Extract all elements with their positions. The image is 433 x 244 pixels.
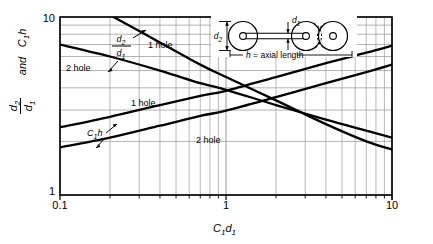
label-one-hole-middle: 1 hole [131,98,156,108]
y-tick-0: 1 [49,185,55,197]
y-tick-1: 10 [43,12,55,24]
x-axis-title-c: C [213,222,221,234]
x-axis-title-d-sub: 1 [232,228,236,237]
y-axis-title-c: C [16,39,28,47]
label-one-hole-upper: 1 hole [148,40,173,50]
inset-caption-h-text: = axial length [251,50,304,60]
x-tick-0: 0.1 [52,199,67,211]
c1h-h: h [97,128,102,138]
label-two-hole-upper: 2 hole [66,63,91,73]
inset-diagram: d2 d1 h = axial length [211,15,357,60]
ratio-num-sub: 2 [121,39,126,46]
inset-hole-left [240,33,247,40]
y-axis-title-h: h [16,29,28,35]
figure-container: 0.1 1 10 1 10 C1d1 d2 d1 and C1h [0,0,433,244]
inset-d1-sub: 1 [297,20,301,27]
ratio-den-sub: 1 [122,53,126,60]
x-tick-1: 1 [223,199,229,211]
y-axis-title-d1-sub: 1 [28,101,37,105]
log-log-chart: 0.1 1 10 1 10 C1d1 d2 d1 and C1h [0,0,433,244]
inset-hole-middle [303,33,310,40]
inset-d2-sub: 2 [217,36,222,43]
label-two-hole-lower: 2 hole [196,135,221,145]
y-axis-title-and: and [16,56,28,75]
inset-hole-right [330,33,337,40]
inset-caption-h: h = axial length [246,50,304,60]
x-tick-2: 10 [386,199,398,211]
